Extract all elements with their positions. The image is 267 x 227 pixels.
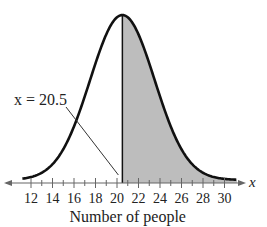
annotation-leader-line [66,107,118,175]
x-tick-label: 12 [24,191,38,206]
annotation-label: x = 20.5 [14,91,67,108]
x-tick-label: 22 [132,191,146,206]
x-tick-label: 18 [89,191,103,206]
axis-symbol: x [248,174,256,190]
axis-arrow-left-icon [4,180,12,186]
x-axis-label: Number of people [70,208,186,226]
x-tick-label: 28 [196,191,210,206]
axis-arrow-right-icon [238,180,246,186]
x-tick-label: 30 [218,191,232,206]
x-tick-label: 26 [175,191,189,206]
x-tick-label: 16 [67,191,81,206]
x-tick-label: 20 [110,191,124,206]
x-tick-label: 14 [46,191,60,206]
x-tick-label: 24 [153,191,167,206]
normal-curve-chart: x12141618202224262830Number of peoplex =… [0,0,267,227]
